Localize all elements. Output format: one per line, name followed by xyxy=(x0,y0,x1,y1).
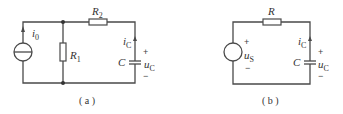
resistor-r-icon xyxy=(263,19,281,25)
circuit-b: + uS − R iC C + uC − ( b ) xyxy=(224,5,329,107)
minus-sign-a: − xyxy=(143,71,148,81)
plus-sign-b: + xyxy=(318,47,323,57)
minus-sign-b: − xyxy=(318,71,323,81)
label-ic-b: iC xyxy=(298,35,306,50)
source-arrow-icon xyxy=(21,26,25,32)
current-arrow-icon-b xyxy=(308,36,312,41)
plus-sign-source: + xyxy=(244,37,249,47)
label-us: uS xyxy=(244,49,254,64)
label-c-a: C xyxy=(118,56,126,68)
circuit-figure: i0 R1 R2 iC C + uC − ( a ) + uS − xyxy=(0,0,343,114)
voltage-source-icon xyxy=(224,43,242,61)
current-source-icon xyxy=(14,43,32,61)
caption-a: ( a ) xyxy=(79,95,95,107)
label-ic-a: iC xyxy=(123,35,131,50)
caption-b: ( b ) xyxy=(262,95,279,107)
label-r2: R2 xyxy=(91,5,103,20)
current-arrow-icon xyxy=(133,36,137,41)
label-r1: R1 xyxy=(69,49,81,64)
minus-sign-source: − xyxy=(245,63,250,73)
label-r: R xyxy=(267,5,275,17)
label-i0: i0 xyxy=(32,27,39,42)
resistor-r1-icon xyxy=(60,43,66,61)
plus-sign-a: + xyxy=(143,47,148,57)
node-dot-top xyxy=(61,20,65,24)
capacitor-icon xyxy=(129,61,141,64)
label-c-b: C xyxy=(293,56,301,68)
node-dot-bottom xyxy=(61,81,65,85)
circuit-a: i0 R1 R2 iC C + uC − ( a ) xyxy=(14,5,155,107)
capacitor-icon-b xyxy=(304,61,316,64)
